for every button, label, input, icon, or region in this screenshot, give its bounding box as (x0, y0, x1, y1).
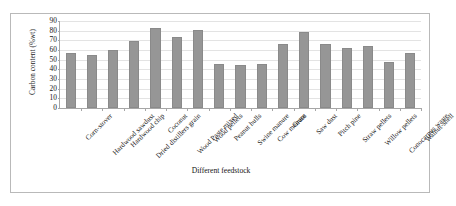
y-tick-mark (58, 79, 60, 80)
bar (342, 48, 352, 108)
y-tick-mark (58, 89, 60, 90)
bar (150, 28, 160, 108)
x-tick-label: Pitch pine (337, 112, 363, 138)
chart-frame: Carbon content (%wt) 0102030405060708090… (10, 13, 430, 193)
x-tick-mark (124, 108, 125, 111)
y-tick-mark (58, 60, 60, 61)
y-tick-mark (58, 21, 60, 22)
bar (235, 65, 245, 109)
y-tick-label: 60 (50, 46, 57, 53)
y-tick-mark (58, 98, 60, 99)
x-tick-mark (272, 108, 273, 111)
x-tick-mark (145, 108, 146, 111)
bar (193, 30, 203, 108)
y-tick-mark (58, 108, 60, 109)
y-tick-label: 40 (50, 66, 57, 73)
bar (320, 44, 330, 108)
x-tick-mark (357, 108, 358, 111)
x-tick-label: Saw dust (315, 112, 339, 136)
y-tick-label: 80 (50, 27, 57, 34)
gridline (60, 40, 421, 41)
bar (129, 41, 139, 108)
y-tick-mark (58, 40, 60, 41)
bar (278, 44, 288, 108)
x-tick-mark (230, 108, 231, 111)
gridline (60, 21, 421, 22)
y-tick-label: 10 (50, 95, 57, 102)
x-tick-mark (421, 108, 422, 111)
x-tick-mark (166, 108, 167, 111)
y-tick-label: 70 (50, 37, 57, 44)
y-tick-label: 20 (50, 85, 57, 92)
y-tick-label: 30 (50, 75, 57, 82)
y-tick-mark (58, 50, 60, 51)
x-tick-mark (294, 108, 295, 111)
y-tick-label: 50 (50, 56, 57, 63)
x-tick-label: Corn-stover (84, 112, 114, 142)
gridline (60, 31, 421, 32)
bar (384, 62, 394, 108)
y-tick-label: 0 (53, 104, 57, 111)
bar (214, 64, 224, 108)
x-tick-mark (336, 108, 337, 111)
y-axis-title: Carbon content (%wt) (29, 12, 37, 112)
bar (66, 53, 76, 108)
y-tick-label: 90 (50, 17, 57, 24)
x-axis-title: Different feedstock (11, 166, 431, 175)
bar (257, 64, 267, 108)
x-tick-mark (251, 108, 252, 111)
bar (363, 46, 373, 108)
x-tick-mark (187, 108, 188, 111)
x-tick-label: Grass (291, 112, 308, 129)
bar (172, 37, 182, 108)
x-tick-mark (102, 108, 103, 111)
x-tick-mark (81, 108, 82, 111)
y-tick-mark (58, 31, 60, 32)
x-tick-mark (315, 108, 316, 111)
bar (405, 53, 415, 108)
x-tick-mark (209, 108, 210, 111)
x-tick-mark (400, 108, 401, 111)
bar (87, 55, 97, 108)
bar (108, 50, 118, 108)
bar (299, 32, 309, 108)
x-tick-mark (379, 108, 380, 111)
y-tick-mark (58, 69, 60, 70)
plot-area: 0102030405060708090Corn-stoverHardwood s… (59, 21, 421, 109)
